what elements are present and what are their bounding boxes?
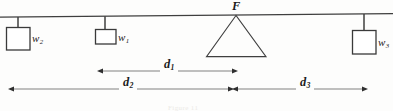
weight-label-w3-base: w	[378, 36, 385, 48]
diagram-canvas	[0, 0, 393, 111]
dimension-label-d1-subscript: 1	[171, 63, 175, 72]
dimension-label-d3-subscript: 3	[307, 81, 311, 90]
weight-box-w1	[96, 30, 117, 45]
weight-box-w2	[7, 28, 31, 51]
weight-label-w2-subscript: 2	[40, 38, 43, 45]
fulcrum-triangle	[207, 16, 267, 57]
dimension-label-d2-base: d	[123, 75, 129, 89]
weight-label-w1-subscript: 1	[126, 37, 129, 44]
dimension-label-d1-base: d	[164, 57, 170, 71]
caption-remnant: Figure 11	[168, 104, 198, 111]
dimension-label-d3: d3	[296, 76, 314, 90]
dimension-label-d3-base: d	[300, 75, 306, 89]
weight-label-w1: w1	[118, 32, 129, 45]
weight-label-w3: w3	[378, 37, 389, 50]
dimension-label-d2: d2	[119, 76, 137, 90]
fulcrum-label: F	[232, 0, 240, 13]
beam-line	[0, 14, 393, 18]
dimension-label-d2-subscript: 2	[130, 81, 134, 90]
dimension-label-d1: d1	[160, 58, 178, 72]
weight-label-w3-subscript: 3	[386, 42, 389, 49]
weight-label-w1-base: w	[118, 31, 125, 43]
weight-label-w2-base: w	[32, 32, 39, 44]
lever-diagram: F w2 w1 w3 d1 d2 d3 Figure 11	[0, 0, 393, 111]
weight-box-w3	[353, 31, 377, 55]
weight-label-w2: w2	[32, 33, 43, 46]
